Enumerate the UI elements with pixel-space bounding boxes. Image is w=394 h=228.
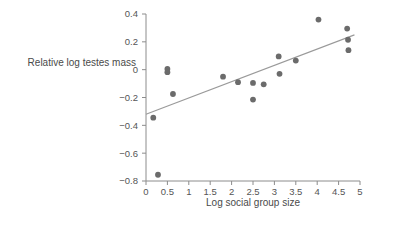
y-tick-label: 0.4	[125, 8, 138, 19]
data-point	[150, 115, 156, 121]
data-points-group	[150, 17, 351, 178]
regression-line-group	[146, 35, 354, 114]
data-point	[250, 97, 256, 103]
data-point	[250, 80, 256, 86]
data-point	[235, 79, 241, 85]
x-tick-label: 0	[143, 186, 148, 197]
data-point	[277, 71, 283, 77]
regression-line	[146, 35, 354, 114]
data-point	[293, 58, 299, 64]
y-tick-label: −0.2	[119, 92, 138, 103]
data-point	[155, 172, 161, 178]
plot-canvas: 0.40.20−0.2−0.4−0.6−0.8 00.511.522.533.5…	[0, 0, 394, 228]
x-axis-tick-labels: 00.511.522.533.544.55	[143, 186, 362, 197]
y-axis-title: Relative log testes mass	[28, 57, 136, 68]
data-point	[220, 74, 226, 80]
data-point	[316, 17, 322, 23]
scatter-chart-figure: 0.40.20−0.2−0.4−0.6−0.8 00.511.522.533.5…	[0, 0, 394, 228]
x-tick-label: 1	[186, 186, 191, 197]
x-tick-label: 3	[272, 186, 277, 197]
data-point	[165, 69, 171, 75]
x-tick-label: 3.5	[289, 186, 302, 197]
data-point	[346, 47, 352, 53]
data-point	[344, 26, 350, 32]
x-tick-label: 2.5	[246, 186, 259, 197]
y-tick-label: −0.6	[119, 148, 138, 159]
y-tick-label: 0.2	[125, 36, 138, 47]
y-axis-ticks	[142, 14, 146, 181]
x-tick-label: 5	[357, 186, 362, 197]
x-tick-label: 1.5	[204, 186, 217, 197]
x-axis: 00.511.522.533.544.55	[143, 181, 362, 197]
data-point	[345, 37, 351, 43]
x-tick-label: 4	[315, 186, 320, 197]
y-tick-label: −0.8	[119, 175, 138, 186]
y-axis: 0.40.20−0.2−0.4−0.6−0.8	[119, 8, 146, 186]
x-axis-title: Log social group size	[206, 197, 300, 208]
data-point	[170, 91, 176, 97]
data-point	[261, 81, 267, 87]
y-tick-label: −0.4	[119, 120, 138, 131]
x-axis-ticks	[146, 181, 360, 185]
x-tick-label: 0.5	[161, 186, 174, 197]
data-point	[276, 54, 282, 60]
x-tick-label: 2	[229, 186, 234, 197]
x-tick-label: 4.5	[332, 186, 345, 197]
y-axis-tick-labels: 0.40.20−0.2−0.4−0.6−0.8	[119, 8, 138, 186]
